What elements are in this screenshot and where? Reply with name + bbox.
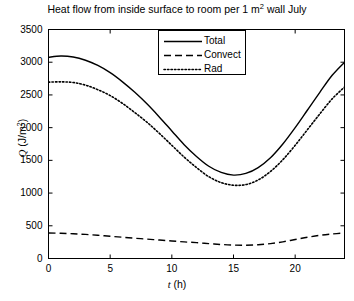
legend-label: Convect [204,49,241,60]
legend-line-sample-rad [163,62,203,75]
x-tick-label: 15 [219,263,249,274]
legend-item-convect: Convect [159,47,247,62]
x-tick-label: 10 [157,263,187,274]
x-tick-label: 5 [95,263,125,274]
chart-legend: TotalConvectRad [158,30,246,75]
y-tick-label: 3500 [3,24,43,35]
x-tick-label: 0 [34,263,64,274]
legend-line-sample-convect [163,48,203,61]
y-tick-label: 3000 [3,56,43,67]
series-group [49,56,345,245]
legend-item-rad: Rad [159,61,247,76]
series-line-convect [49,233,345,245]
y-tick-label: 500 [3,220,43,231]
legend-item-total: Total [159,33,247,48]
y-axis-label: Q (J/m2) [16,98,28,178]
x-axis-label-unit: (h) [171,278,187,290]
y-axis-label-unit-pre: (J/m [16,126,28,149]
legend-label: Total [204,35,225,46]
x-tick-label: 20 [280,263,310,274]
y-axis-label-symbol: Q [17,150,28,158]
x-axis-label: t (h) [0,278,354,290]
series-line-rad [49,82,345,186]
legend-label: Rad [204,63,222,74]
y-axis-label-superscript: 2 [15,122,24,126]
chart-figure: Heat flow from inside surface to room pe… [0,0,354,301]
y-axis-label-unit-post: ) [16,119,28,123]
y-tick-label: 1000 [3,187,43,198]
legend-line-sample-total [163,34,203,47]
